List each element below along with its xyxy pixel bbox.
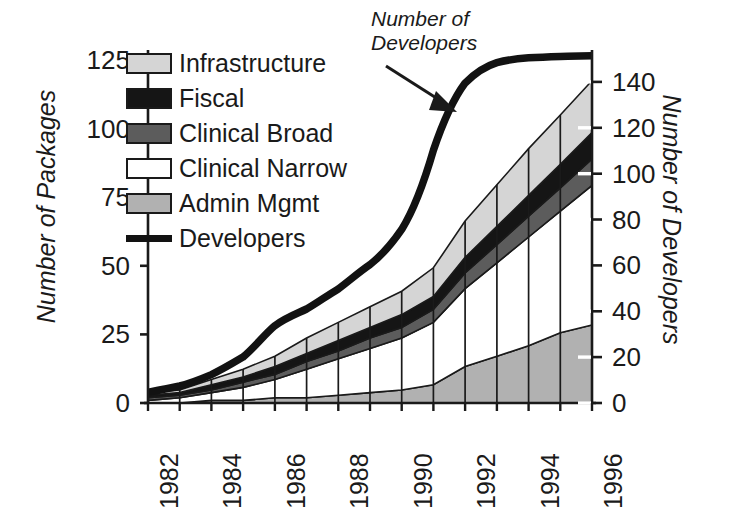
legend-label-fiscal: Fiscal xyxy=(179,86,244,111)
annotation-arrow xyxy=(386,66,457,112)
y-axis-right-title: Number of Developers xyxy=(657,70,686,370)
legend-item-clinical-broad[interactable]: Clinical Broad xyxy=(126,116,347,151)
y-right-tick-40: 40 xyxy=(612,296,641,327)
y-right-tick-140: 140 xyxy=(612,66,655,97)
developers-annotation-line1: Number of xyxy=(371,7,477,31)
y-left-tick-75: 75 xyxy=(50,182,130,213)
y-left-tick-0: 0 xyxy=(50,388,130,419)
y-right-tick-80: 80 xyxy=(612,204,641,235)
developers-annotation: Number of Developers xyxy=(371,7,477,54)
legend-swatch-infrastructure xyxy=(126,53,172,74)
x-tick-1994: 1994 xyxy=(536,453,565,509)
legend-label-clinical-broad: Clinical Broad xyxy=(179,121,333,146)
y-left-tick-125: 125 xyxy=(50,45,130,76)
legend-swatch-fiscal xyxy=(126,88,172,109)
legend-item-fiscal[interactable]: Fiscal xyxy=(126,81,347,116)
x-tick-1982: 1982 xyxy=(155,453,184,509)
y-right-tick-120: 120 xyxy=(612,112,655,143)
y-right-tick-100: 100 xyxy=(612,158,655,189)
x-tick-1996: 1996 xyxy=(599,453,628,509)
chart-figure: Number of Packages Number of Developers … xyxy=(0,0,738,518)
x-tick-1988: 1988 xyxy=(345,453,374,509)
y-right-tick-60: 60 xyxy=(612,250,641,281)
legend-item-developers[interactable]: Developers xyxy=(126,221,347,256)
legend-label-infrastructure: Infrastructure xyxy=(179,51,326,76)
legend-swatch-clinical-narrow xyxy=(126,158,172,179)
chart-legend: Infrastructure Fiscal Clinical Broad Cli… xyxy=(126,46,347,256)
legend-item-infrastructure[interactable]: Infrastructure xyxy=(126,46,347,81)
y-left-tick-100: 100 xyxy=(50,113,130,144)
y-right-tick-20: 20 xyxy=(612,342,641,373)
legend-item-clinical-narrow[interactable]: Clinical Narrow xyxy=(126,151,347,186)
legend-item-admin-mgmt[interactable]: Admin Mgmt xyxy=(126,186,347,221)
y-right-tick-0: 0 xyxy=(612,388,626,419)
legend-swatch-clinical-broad xyxy=(126,123,172,144)
developers-annotation-line2: Developers xyxy=(371,31,477,55)
right-axis-ticks xyxy=(592,82,602,403)
y-left-tick-25: 25 xyxy=(50,319,130,350)
legend-swatch-admin-mgmt xyxy=(126,193,172,214)
x-tick-1986: 1986 xyxy=(282,453,311,509)
legend-swatch-developers xyxy=(126,235,172,242)
legend-label-developers: Developers xyxy=(179,226,305,251)
x-tick-1984: 1984 xyxy=(218,453,247,509)
x-tick-1990: 1990 xyxy=(409,453,438,509)
y-left-tick-50: 50 xyxy=(50,250,130,281)
legend-label-clinical-narrow: Clinical Narrow xyxy=(179,156,347,181)
legend-label-admin-mgmt: Admin Mgmt xyxy=(179,191,319,216)
x-tick-1992: 1992 xyxy=(472,453,501,509)
